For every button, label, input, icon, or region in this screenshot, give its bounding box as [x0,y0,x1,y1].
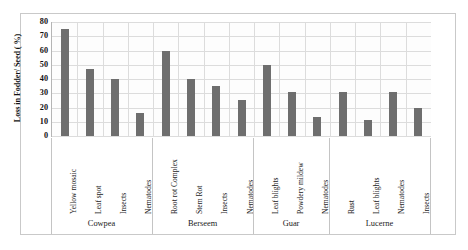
bar [61,29,69,136]
x-axis-category-label: Insects [219,138,231,214]
x-axis-category-label: Yellow mosaic [68,138,80,214]
x-axis-group-label: Lucerne [329,217,430,231]
gridline-vertical [103,22,104,136]
gridline-vertical [355,22,356,136]
x-axis-category-label: Nematodes [320,138,332,214]
bar [313,117,321,136]
x-axis-group-label: Berseem [152,217,253,231]
x-axis-category-label: Stem Rot [194,138,206,214]
x-axis-group-label: Guar [253,217,329,231]
x-axis-category-label: Nematodes [396,138,408,214]
x-axis-group-labels: CowpeaBerseemGuarLucerne [51,214,430,234]
y-axis-tick-label: 70 [28,32,48,40]
y-axis-tick-label: 20 [28,104,48,112]
bar [162,51,170,137]
gridline-vertical [380,22,381,136]
gridline-vertical [330,22,331,136]
bar [212,86,220,136]
x-axis-group-label: Cowpea [51,217,152,231]
bar [414,108,422,137]
bar [339,92,347,136]
gridline-horizontal [52,65,431,66]
gridline-vertical [128,22,129,136]
group-separator [253,138,254,234]
group-separator [329,138,330,234]
gridline-vertical [406,22,407,136]
gridline-horizontal [52,93,431,94]
bar [238,100,246,136]
x-axis-category-label: Insects [118,138,130,214]
x-axis-category-label: Leaf blights [270,138,282,214]
x-axis-category-labels: Yellow mosaicLeaf spotInsectsNematodesRo… [51,138,430,214]
gridline-vertical [178,22,179,136]
x-axis-category-label: Leaf blights [371,138,383,214]
gridline-vertical [279,22,280,136]
x-axis-category-label: Nematodes [245,138,257,214]
gridline-horizontal [52,22,431,23]
bar [111,79,119,136]
y-axis-tick-label: 0 [28,132,48,140]
bar [136,113,144,136]
y-axis-tick-label: 50 [28,61,48,69]
x-axis-category-label: Root rot Complex [169,138,181,214]
y-axis-tick-labels: 01020304050607080 [28,18,48,136]
gridline-horizontal [52,36,431,37]
gridline-vertical [153,22,154,136]
gridline-vertical [305,22,306,136]
x-axis-category-label: Leaf spot [93,138,105,214]
gridline-vertical [229,22,230,136]
x-axis-category-label: Rust [346,138,358,214]
y-axis-tick-label: 80 [28,18,48,26]
plot-area [51,22,431,137]
x-axis-category-label: Nematodes [143,138,155,214]
bar [187,79,195,136]
x-axis-category-label: Insects [421,138,433,214]
bar [86,69,94,136]
bar-chart-figure: Loss in Fodder/ Seed ( %) 01020304050607… [0,0,468,250]
bar [364,120,372,136]
gridline-vertical [204,22,205,136]
bar [389,92,397,136]
bar [288,92,296,136]
group-separator [152,138,153,234]
gridline-vertical [254,22,255,136]
bar [263,65,271,136]
y-axis-tick-label: 30 [28,89,48,97]
x-axis-category-label: Powdery mildew [295,138,307,214]
gridline-horizontal [52,51,431,52]
group-separator [51,138,52,234]
gridline-horizontal [52,79,431,80]
gridline-horizontal [52,136,431,137]
gridline-vertical [77,22,78,136]
group-separator [430,138,431,234]
y-axis-title: Loss in Fodder/ Seed ( %) [11,21,25,135]
y-axis-tick-label: 10 [28,118,48,126]
y-axis-tick-label: 40 [28,75,48,83]
y-axis-tick-label: 60 [28,47,48,55]
